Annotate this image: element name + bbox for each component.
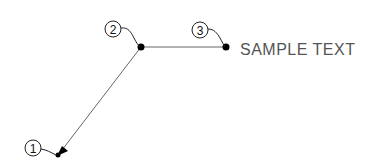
callout-2: 2 bbox=[105, 21, 140, 47]
vertex-dot-2 bbox=[138, 44, 145, 51]
callout-3-label: 3 bbox=[197, 24, 204, 38]
diagram-canvas: 1 2 3 SAMPLE TEXT bbox=[0, 0, 389, 167]
callout-1-label: 1 bbox=[30, 142, 37, 156]
callout-2-label: 2 bbox=[110, 23, 117, 37]
leader-diagram: 1 2 3 SAMPLE TEXT bbox=[0, 0, 389, 167]
leader-text: SAMPLE TEXT bbox=[240, 41, 355, 58]
callout-3: 3 bbox=[192, 22, 225, 47]
vertex-dot-1 bbox=[56, 153, 61, 158]
callout-1: 1 bbox=[25, 140, 56, 156]
leader-segment-1-2 bbox=[62, 47, 141, 150]
